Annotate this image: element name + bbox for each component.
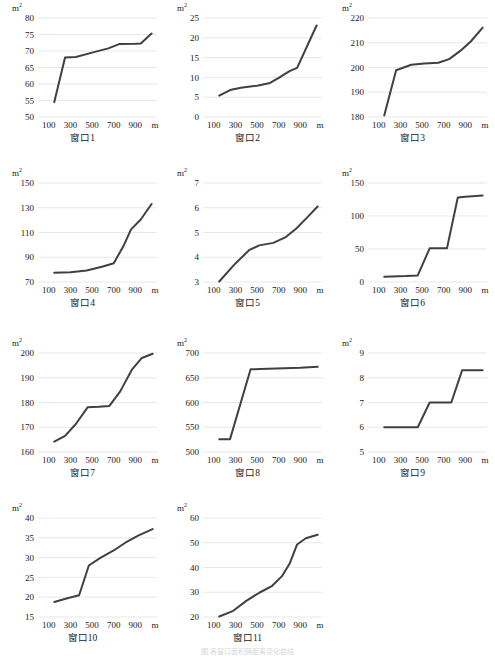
x-tick-label: 700 [437, 120, 451, 130]
x-tick-label: 300 [229, 120, 243, 130]
chart-caption: 窗口2 [165, 130, 330, 144]
x-tick-label: 300 [64, 455, 78, 465]
x-tick-label: 700 [272, 455, 286, 465]
chart-cell: m2 152025303540100300500700900m 窗口10 [0, 500, 165, 660]
chart-caption: 窗口11 [165, 630, 330, 644]
x-tick-label: 500 [85, 120, 99, 130]
chart-7[interactable]: m2 160170180190200100300500700900m 窗口7 [0, 335, 165, 480]
y-tick-label: 65 [25, 63, 35, 73]
chart-caption: 窗口1 [0, 130, 165, 144]
chart-caption: 窗口5 [165, 295, 330, 309]
y-tick-label: 25 [25, 573, 35, 583]
x-tick-label: 300 [394, 285, 408, 295]
y-tick-label: 15 [25, 612, 35, 622]
x-tick-label: 100 [372, 455, 386, 465]
y-tick-label: 6 [360, 422, 365, 432]
x-tick-label: 100 [42, 620, 56, 630]
chart-cell: m2 7090110130150100300500700900m 窗口4 [0, 165, 165, 335]
y-tick-label: 550 [186, 422, 200, 432]
plot-area: 050100150100300500700900m [330, 165, 495, 310]
y-tick-label: 20 [190, 33, 200, 43]
chart-cell: m2 500550600650700100300500700900m 窗口8 [165, 335, 330, 500]
plot-area: 50556065707580100300500700900m [0, 0, 165, 145]
y-tick-label: 70 [25, 46, 35, 56]
x-tick-label: 500 [85, 455, 99, 465]
chart-8[interactable]: m2 500550600650700100300500700900m 窗口8 [165, 335, 330, 480]
chart-cell: m2 050100150100300500700900m 窗口6 [330, 165, 495, 335]
plot-area: 0510152025100300500700900m [165, 0, 330, 145]
x-tick-label: 700 [272, 620, 286, 630]
x-tick-label: 300 [64, 285, 78, 295]
chart-2[interactable]: m2 0510152025100300500700900m 窗口2 [165, 0, 330, 145]
plot-area: 152025303540100300500700900m [0, 500, 165, 645]
chart-grid: m2 50556065707580100300500700900m 窗口1 m2… [0, 0, 495, 660]
plot-area: 2030405060100300500700900m [165, 500, 330, 645]
x-tick-label: 300 [394, 120, 408, 130]
x-tick-label: 900 [129, 120, 143, 130]
data-series-line [384, 370, 482, 427]
x-tick-label: 700 [107, 120, 121, 130]
chart-caption: 窗口4 [0, 295, 165, 309]
x-axis-unit: m [316, 455, 323, 465]
x-tick-label: 500 [415, 455, 429, 465]
plot-area: 34567100300500700900m [165, 165, 330, 310]
y-tick-label: 5 [195, 228, 200, 238]
chart-4[interactable]: m2 7090110130150100300500700900m 窗口4 [0, 165, 165, 310]
x-tick-label: 500 [85, 620, 99, 630]
plot-area: 500550600650700100300500700900m [165, 335, 330, 480]
chart-cell: m2 0510152025100300500700900m 窗口2 [165, 0, 330, 165]
x-tick-label: 300 [229, 455, 243, 465]
x-axis-unit: m [481, 120, 488, 130]
y-tick-label: 160 [21, 447, 35, 457]
y-tick-label: 90 [25, 252, 35, 262]
chart-1[interactable]: m2 50556065707580100300500700900m 窗口1 [0, 0, 165, 145]
data-series-line [54, 529, 152, 602]
y-tick-label: 7 [195, 178, 200, 188]
chart-11[interactable]: m2 2030405060100300500700900m 窗口11 [165, 500, 330, 645]
y-tick-label: 700 [186, 348, 200, 358]
x-tick-label: 900 [129, 285, 143, 295]
x-axis-unit: m [316, 120, 323, 130]
y-tick-label: 9 [360, 348, 365, 358]
chart-5[interactable]: m2 34567100300500700900m 窗口5 [165, 165, 330, 310]
y-tick-label: 0 [195, 112, 200, 122]
x-tick-label: 300 [64, 120, 78, 130]
y-tick-label: 210 [351, 38, 365, 48]
x-tick-label: 300 [64, 620, 78, 630]
y-tick-label: 5 [195, 92, 200, 102]
x-tick-label: 900 [294, 455, 308, 465]
chart-cell: m2 50556065707580100300500700900m 窗口1 [0, 0, 165, 165]
x-tick-label: 900 [459, 120, 473, 130]
x-tick-label: 500 [250, 620, 264, 630]
y-tick-label: 75 [25, 30, 35, 40]
plot-area: 160170180190200100300500700900m [0, 335, 165, 480]
y-tick-label: 5 [360, 447, 365, 457]
x-axis-unit: m [316, 285, 323, 295]
chart-6[interactable]: m2 050100150100300500700900m 窗口6 [330, 165, 495, 310]
y-tick-label: 30 [25, 553, 35, 563]
y-tick-label: 70 [25, 277, 35, 287]
plot-area: 7090110130150100300500700900m [0, 165, 165, 310]
x-tick-label: 700 [272, 120, 286, 130]
y-tick-label: 600 [186, 398, 200, 408]
x-tick-label: 900 [294, 620, 308, 630]
y-tick-label: 30 [190, 587, 200, 597]
chart-9[interactable]: m2 56789100300500700900m 窗口9 [330, 335, 495, 480]
chart-3[interactable]: m2 180190200210220100300500700900m 窗口3 [330, 0, 495, 145]
chart-10[interactable]: m2 152025303540100300500700900m 窗口10 [0, 500, 165, 645]
x-tick-label: 100 [42, 120, 56, 130]
data-series-line [219, 535, 317, 617]
y-tick-label: 190 [351, 87, 365, 97]
data-series-line [54, 34, 151, 103]
y-tick-label: 60 [25, 79, 35, 89]
y-tick-label: 100 [351, 211, 365, 221]
chart-caption: 窗口7 [0, 465, 165, 479]
y-tick-label: 180 [351, 112, 365, 122]
x-axis-unit: m [151, 620, 158, 630]
data-series-line [54, 354, 152, 442]
data-series-line [384, 28, 482, 116]
x-tick-label: 500 [415, 285, 429, 295]
x-tick-label: 300 [394, 455, 408, 465]
empty-cell [330, 500, 495, 660]
y-tick-label: 190 [21, 373, 35, 383]
